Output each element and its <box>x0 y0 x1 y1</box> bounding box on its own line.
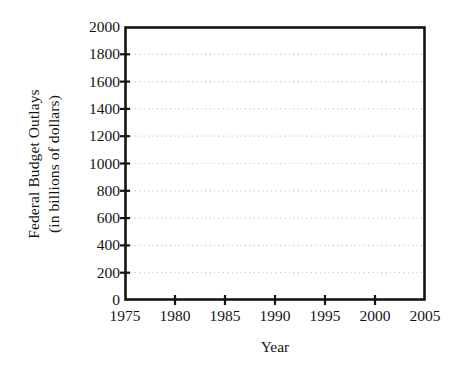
x-axis-tick-labels: 1975198019851990199520002005 <box>0 306 449 330</box>
gridlines <box>126 54 424 272</box>
chart-figure: Federal Budget Outlays (in billions of d… <box>0 0 449 374</box>
x-tick-label: 2005 <box>395 306 449 326</box>
x-axis-title: Year <box>125 338 425 356</box>
